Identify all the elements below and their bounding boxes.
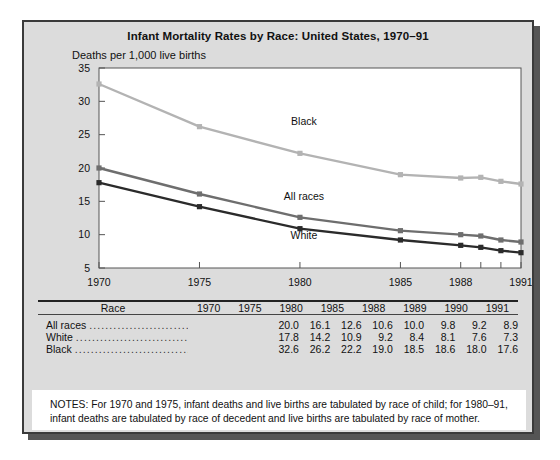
cell-1988: 8.4 <box>393 331 424 343</box>
screenshot-root: Infant Mortality Rates by Race: United S… <box>0 0 560 460</box>
cell-1970: 32.6 <box>268 343 299 355</box>
data-point-white-1970 <box>96 180 101 185</box>
figure-card: Infant Mortality Rates by Race: United S… <box>22 20 534 434</box>
cell-1980: 10.9 <box>330 331 361 343</box>
data-point-all-races-1985 <box>398 228 403 233</box>
cell-1975: 26.2 <box>299 343 330 355</box>
dot-leader: ........................................ <box>89 319 188 331</box>
data-point-black-1970 <box>96 81 101 86</box>
data-point-black-1980 <box>297 151 302 156</box>
dot-leader: ........................................ <box>75 343 188 355</box>
cell-1989: 9.8 <box>424 319 455 331</box>
y-tick-label: 10 <box>78 228 90 240</box>
y-tick-label: 30 <box>78 95 90 107</box>
cell-1991: 17.6 <box>487 343 518 355</box>
col-header-1991: 1991 <box>477 302 518 314</box>
table-head: Race19701975198019851988198919901991 <box>38 302 518 314</box>
col-header-1988: 1988 <box>353 302 394 314</box>
data-point-white-1989 <box>478 245 483 250</box>
x-tick-label: 1985 <box>389 276 413 288</box>
col-header-1980: 1980 <box>271 302 312 314</box>
cell-1988: 10.0 <box>393 319 424 331</box>
col-header-1990: 1990 <box>436 302 477 314</box>
data-point-black-1985 <box>398 172 403 177</box>
col-header-1975: 1975 <box>229 302 270 314</box>
notes-text: NOTES: For 1970 and 1975, infant deaths … <box>50 398 512 425</box>
cell-1975: 16.1 <box>299 319 330 331</box>
data-table: Race19701975198019851988198919901991 All… <box>38 300 518 355</box>
table-row: White...................................… <box>38 331 518 343</box>
y-tick-label: 15 <box>78 195 90 207</box>
cell-1985: 19.0 <box>362 343 393 355</box>
x-tick-label: 1988 <box>449 276 473 288</box>
row-label: White...................................… <box>38 331 268 343</box>
data-point-black-1975 <box>197 124 202 129</box>
data-point-white-1990 <box>498 248 503 253</box>
data-point-black-1988 <box>458 175 463 180</box>
table-element: Race19701975198019851988198919901991 <box>38 302 518 314</box>
data-point-all-races-1970 <box>96 165 101 170</box>
data-point-all-races-1980 <box>297 215 302 220</box>
row-label: All races...............................… <box>38 319 268 331</box>
data-point-black-1989 <box>478 175 483 180</box>
table-header-row: Race19701975198019851988198919901991 <box>38 302 518 314</box>
cell-1980: 22.2 <box>330 343 361 355</box>
cell-1970: 20.0 <box>268 319 299 331</box>
y-tick-label: 20 <box>78 162 90 174</box>
data-point-white-1985 <box>398 237 403 242</box>
row-label: Black...................................… <box>38 343 268 355</box>
x-tick-label: 1980 <box>288 276 312 288</box>
table-row: All races...............................… <box>38 319 518 331</box>
dot-leader: ........................................ <box>76 331 188 343</box>
x-tick-label: 1991 <box>509 276 532 288</box>
cell-1990: 7.6 <box>455 331 486 343</box>
cell-1985: 10.6 <box>362 319 393 331</box>
cell-1991: 7.3 <box>487 331 518 343</box>
data-point-all-races-1990 <box>498 237 503 242</box>
cell-1985: 9.2 <box>362 331 393 343</box>
cell-1990: 9.2 <box>455 319 486 331</box>
data-point-all-races-1991 <box>518 239 523 244</box>
cell-1988: 18.5 <box>393 343 424 355</box>
col-header-1970: 1970 <box>188 302 229 314</box>
y-tick-label: 35 <box>78 62 90 74</box>
series-label-black: Black <box>291 115 317 127</box>
data-point-all-races-1989 <box>478 233 483 238</box>
data-point-all-races-1988 <box>458 232 463 237</box>
cell-1991: 8.9 <box>487 319 518 331</box>
series-label-all-races: All races <box>284 190 324 202</box>
line-chart-svg: 5101520253035197019751980198519881991Bla… <box>24 22 532 292</box>
data-point-white-1991 <box>518 250 523 255</box>
data-point-white-1988 <box>458 243 463 248</box>
y-tick-label: 5 <box>84 262 90 274</box>
x-tick-label: 1975 <box>188 276 212 288</box>
cell-1975: 14.2 <box>299 331 330 343</box>
col-header-1989: 1989 <box>394 302 435 314</box>
chart-plot: 5101520253035197019751980198519881991Bla… <box>24 22 532 292</box>
table-body: All races...............................… <box>38 319 518 355</box>
y-tick-label: 25 <box>78 128 90 140</box>
cell-1989: 8.1 <box>424 331 455 343</box>
table-row: Black...................................… <box>38 343 518 355</box>
data-point-black-1990 <box>498 179 503 184</box>
col-header-race: Race <box>38 302 188 314</box>
data-point-all-races-1975 <box>197 191 202 196</box>
table-header-rule <box>38 314 518 315</box>
data-point-black-1991 <box>518 181 523 186</box>
x-tick-label: 1970 <box>87 276 111 288</box>
cell-1990: 18.0 <box>455 343 486 355</box>
cell-1970: 17.8 <box>268 331 299 343</box>
cell-1980: 12.6 <box>330 319 361 331</box>
cell-1989: 18.6 <box>424 343 455 355</box>
table-body-element: All races...............................… <box>38 319 518 355</box>
col-header-1985: 1985 <box>312 302 353 314</box>
series-label-white: White <box>291 229 318 241</box>
data-point-white-1975 <box>197 204 202 209</box>
